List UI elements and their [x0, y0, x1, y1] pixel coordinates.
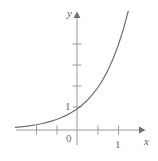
y-axis-arrow-icon	[74, 12, 81, 19]
exponential-graph-figure: y x 0 1 1	[0, 0, 158, 161]
exponential-curve	[16, 11, 129, 127]
origin-label: 0	[66, 132, 72, 144]
x-axis-arrow-icon	[139, 127, 146, 134]
y-axis-label: y	[66, 7, 72, 19]
plot-canvas: y x 0 1 1	[0, 0, 158, 161]
x-tick-label-1: 1	[115, 138, 121, 150]
x-axis-label: x	[143, 135, 149, 147]
y-tick-label-1: 1	[65, 100, 71, 112]
